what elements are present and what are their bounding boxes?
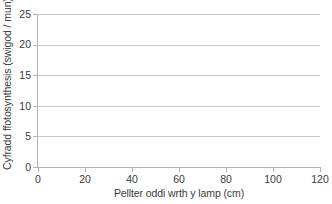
x-axis-tick bbox=[38, 168, 39, 172]
gridline-20 bbox=[38, 45, 320, 46]
y-axis-line bbox=[37, 14, 38, 168]
chart-figure: Cyfradd ffotosynthesis (swigod / mun) 25… bbox=[0, 0, 332, 204]
x-tick-label: 40 bbox=[112, 173, 152, 185]
plot-area bbox=[38, 14, 320, 167]
x-axis-tick bbox=[226, 168, 227, 172]
gridline-5 bbox=[38, 136, 320, 137]
gridline-10 bbox=[38, 106, 320, 107]
x-axis-title: Pellter oddi wrth y lamp (cm) bbox=[38, 186, 320, 200]
y-tick-label: 10 bbox=[3, 101, 31, 112]
x-tick-label: 60 bbox=[159, 173, 199, 185]
gridline-25 bbox=[38, 14, 320, 15]
x-tick-label: 120 bbox=[300, 173, 332, 185]
x-tick-label: 80 bbox=[206, 173, 246, 185]
y-tick-label: 15 bbox=[3, 70, 31, 81]
y-tick-label: 5 bbox=[3, 131, 31, 142]
x-axis-tick bbox=[273, 168, 274, 172]
x-axis-tick bbox=[85, 168, 86, 172]
y-tick-label: 0 bbox=[3, 162, 31, 173]
x-axis-tick bbox=[179, 168, 180, 172]
x-tick-label: 20 bbox=[65, 173, 105, 185]
x-tick-label: 0 bbox=[18, 173, 58, 185]
x-tick-label: 100 bbox=[253, 173, 293, 185]
x-axis-tick bbox=[132, 168, 133, 172]
y-tick-label: 25 bbox=[3, 9, 31, 20]
x-axis-tick bbox=[320, 168, 321, 172]
gridline-15 bbox=[38, 75, 320, 76]
y-tick-label: 20 bbox=[3, 39, 31, 50]
